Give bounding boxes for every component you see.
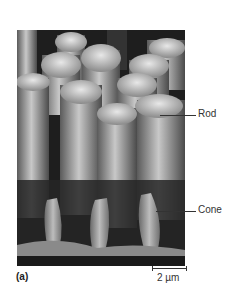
panel-letter: (a) bbox=[16, 271, 28, 282]
rod-leader-line bbox=[160, 115, 196, 116]
rod-label: Rod bbox=[198, 108, 216, 119]
cone-label: Cone bbox=[198, 204, 222, 215]
scale-bar-label: 2 µm bbox=[157, 272, 179, 283]
sem-micrograph bbox=[17, 30, 185, 266]
micrograph-image bbox=[17, 30, 185, 266]
scale-bar bbox=[152, 266, 187, 271]
cone-leader-line bbox=[156, 211, 196, 212]
